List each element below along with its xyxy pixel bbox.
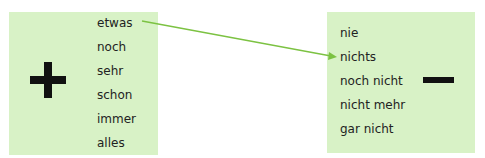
connector-arrow [0, 0, 485, 158]
arrowhead-icon [328, 52, 337, 60]
